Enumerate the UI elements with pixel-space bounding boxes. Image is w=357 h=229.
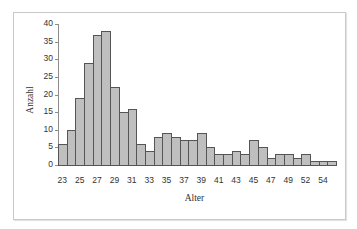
y-tick-label: 5 bbox=[31, 141, 53, 151]
y-tick bbox=[55, 95, 59, 96]
x-axis-title: Alter bbox=[0, 193, 357, 203]
y-tick bbox=[55, 24, 59, 25]
y-axis-title: Anzahl bbox=[25, 80, 35, 120]
y-tick-label: 35 bbox=[31, 36, 53, 46]
y-tick bbox=[55, 130, 59, 131]
histogram-bar bbox=[327, 161, 337, 166]
y-tick-label: 10 bbox=[31, 124, 53, 134]
y-tick-label: 30 bbox=[31, 53, 53, 63]
y-tick bbox=[55, 77, 59, 78]
y-tick-label: 40 bbox=[31, 18, 53, 28]
x-tick-label: 54 bbox=[313, 175, 333, 185]
chart-frame bbox=[13, 12, 346, 220]
y-tick bbox=[55, 42, 59, 43]
y-tick bbox=[55, 59, 59, 60]
y-tick bbox=[55, 112, 59, 113]
y-tick-label: 0 bbox=[31, 159, 53, 169]
